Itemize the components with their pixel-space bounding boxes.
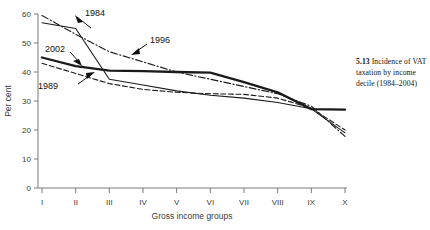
leader-arrow-1996 — [131, 48, 140, 55]
x-tick-label: VII — [239, 198, 249, 207]
x-tick-label: I — [41, 198, 43, 207]
x-axis-ticks: IIIIIIIVVVIVIIVIIIIXX — [41, 188, 348, 207]
y-tick-label: 30 — [22, 97, 31, 106]
x-tick-label: VIII — [272, 198, 284, 207]
y-axis-title: Per cent — [3, 85, 13, 117]
x-tick-label: IX — [308, 198, 316, 207]
y-tick-label: 60 — [22, 10, 31, 19]
leader-arrow-1984 — [75, 15, 83, 23]
y-tick-label: 10 — [22, 155, 31, 164]
series-annotation-1996: 1996 — [150, 35, 170, 45]
x-tick-label: X — [342, 198, 348, 207]
y-tick-label: 0 — [27, 184, 32, 193]
y-tick-label: 20 — [22, 126, 31, 135]
figure-caption: 5.13 Incidence of VAT taxation by income… — [356, 57, 430, 89]
x-tick-label: V — [174, 198, 180, 207]
figure-root: 0102030405060 IIIIIIIVVVIVIIVIIIIXX Gros… — [0, 0, 430, 230]
x-tick-label: II — [73, 198, 77, 207]
series-annotation-1989: 1989 — [38, 81, 58, 91]
y-tick-label: 40 — [22, 68, 31, 77]
x-tick-label: III — [106, 198, 113, 207]
caption-number: 5.13 — [356, 57, 370, 66]
y-axis-ticks: 0102030405060 — [22, 10, 38, 193]
line-chart: 0102030405060 IIIIIIIVVVIVIIVIIIIXX Gros… — [0, 0, 355, 230]
chart-plot-area: 0102030405060 IIIIIIIVVVIVIIVIIIIXX Gros… — [0, 0, 355, 230]
x-tick-label: IV — [139, 198, 147, 207]
y-tick-label: 50 — [22, 39, 31, 48]
x-tick-label: VI — [207, 198, 215, 207]
series-annotation-2002: 2002 — [45, 44, 65, 54]
series-annotation-1984: 1984 — [85, 8, 105, 18]
x-axis-title: Gross income groups — [152, 211, 233, 221]
